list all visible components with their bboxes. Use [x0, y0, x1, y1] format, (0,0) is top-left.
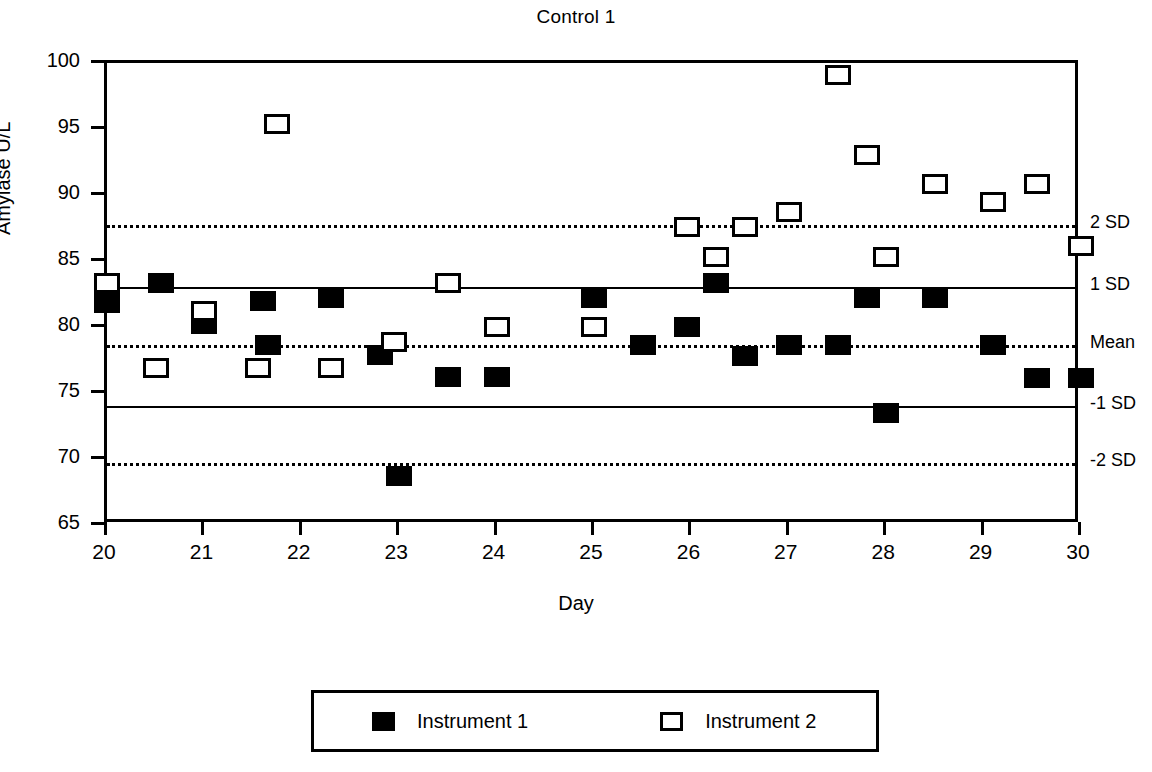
x-axis-tick-label: 22: [274, 540, 324, 564]
data-point-marker: [825, 335, 851, 355]
data-point-marker: [922, 288, 948, 308]
x-axis-tick-label: 21: [176, 540, 226, 564]
data-point-marker: [873, 247, 899, 267]
data-point-marker: [922, 174, 948, 194]
reference-line: [107, 463, 1075, 466]
x-axis-tick-label: 28: [858, 540, 908, 564]
x-axis-title: Day: [0, 592, 1152, 615]
data-point-marker: [581, 317, 607, 337]
data-point-marker: [1024, 368, 1050, 388]
data-point-marker: [484, 317, 510, 337]
chart-title: Control 1: [0, 6, 1152, 28]
data-point-marker: [191, 301, 217, 321]
x-axis-tick: [201, 522, 204, 535]
x-axis-tick-label: 24: [469, 540, 519, 564]
x-axis-tick: [981, 522, 984, 535]
y-axis-tick-label: 90: [36, 181, 80, 204]
chart-canvas: Control 1 Amylase U/L Day 65707580859095…: [0, 0, 1152, 772]
reference-line-label: 1 SD: [1090, 274, 1130, 295]
data-point-marker: [318, 288, 344, 308]
data-point-marker: [674, 217, 700, 237]
data-point-marker: [980, 335, 1006, 355]
x-axis-tick: [883, 522, 886, 535]
x-axis-tick: [786, 522, 789, 535]
x-axis-tick-label: 27: [761, 540, 811, 564]
x-axis-tick: [494, 522, 497, 535]
x-axis-tick: [688, 522, 691, 535]
y-axis-title: Amylase U/L: [0, 122, 15, 235]
data-point-marker: [264, 114, 290, 134]
data-point-marker: [143, 358, 169, 378]
x-axis-tick: [104, 522, 107, 535]
data-point-marker: [318, 358, 344, 378]
x-axis-tick-label: 25: [566, 540, 616, 564]
data-point-marker: [94, 273, 120, 293]
data-point-marker: [250, 291, 276, 311]
data-point-marker: [94, 293, 120, 313]
data-point-marker: [435, 273, 461, 293]
y-axis-tick-label: 75: [36, 379, 80, 402]
x-axis-tick-label: 26: [663, 540, 713, 564]
y-axis-tick: [91, 126, 104, 129]
y-axis-tick: [91, 258, 104, 261]
reference-line-label: -2 SD: [1090, 449, 1136, 470]
reference-line-label: 2 SD: [1090, 212, 1130, 233]
y-axis-tick-label: 85: [36, 247, 80, 270]
y-axis-tick: [91, 60, 104, 63]
y-axis-tick: [91, 390, 104, 393]
data-point-marker: [1024, 174, 1050, 194]
data-point-marker: [980, 192, 1006, 212]
data-point-marker: [854, 288, 880, 308]
reference-line: [107, 225, 1075, 228]
data-point-marker: [581, 288, 607, 308]
legend-entry: Instrument 1: [372, 710, 528, 733]
x-axis-tick: [1078, 522, 1081, 535]
data-point-marker: [732, 217, 758, 237]
y-axis-tick-label: 70: [36, 445, 80, 468]
legend-label: Instrument 2: [705, 710, 816, 733]
data-point-marker: [776, 335, 802, 355]
x-axis-tick: [299, 522, 302, 535]
legend-label: Instrument 1: [417, 710, 528, 733]
x-axis-tick-label: 29: [956, 540, 1006, 564]
x-axis-tick: [396, 522, 399, 535]
legend-entry: Instrument 2: [660, 710, 816, 733]
plot-area: [104, 60, 1078, 522]
reference-line-label: -1 SD: [1090, 393, 1136, 414]
data-point-marker: [703, 247, 729, 267]
data-point-marker: [381, 332, 407, 352]
reference-line-label: Mean: [1090, 332, 1135, 353]
data-point-marker: [776, 202, 802, 222]
y-axis-tick: [91, 522, 104, 525]
reference-line: [107, 345, 1075, 348]
reference-line: [107, 406, 1075, 408]
data-point-marker: [1068, 368, 1094, 388]
data-point-marker: [435, 367, 461, 387]
y-axis-tick-label: 80: [36, 313, 80, 336]
data-point-marker: [854, 145, 880, 165]
x-axis-tick-label: 20: [79, 540, 129, 564]
chart-legend: Instrument 1 Instrument 2: [311, 690, 879, 752]
y-axis-tick-label: 65: [36, 511, 80, 534]
y-axis-tick-label: 100: [36, 49, 80, 72]
data-point-marker: [873, 403, 899, 423]
data-point-marker: [825, 65, 851, 85]
x-axis-tick: [591, 522, 594, 535]
y-axis-tick: [91, 192, 104, 195]
data-point-marker: [148, 273, 174, 293]
data-point-marker: [255, 335, 281, 355]
filled-square-icon: [372, 712, 395, 731]
data-point-marker: [484, 367, 510, 387]
data-point-marker: [1068, 236, 1094, 256]
y-axis-tick: [91, 456, 104, 459]
data-point-marker: [245, 358, 271, 378]
data-point-marker: [703, 273, 729, 293]
y-axis-tick-label: 95: [36, 115, 80, 138]
x-axis-tick-label: 30: [1053, 540, 1103, 564]
x-axis-tick-label: 23: [371, 540, 421, 564]
data-point-marker: [386, 466, 412, 486]
open-square-icon: [660, 712, 683, 731]
data-point-marker: [674, 317, 700, 337]
y-axis-tick: [91, 324, 104, 327]
data-point-marker: [732, 346, 758, 366]
